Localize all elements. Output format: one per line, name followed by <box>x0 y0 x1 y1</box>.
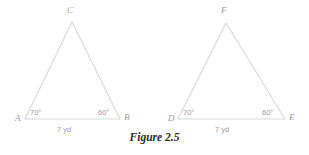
angle-label-d: 70° <box>183 109 194 117</box>
vertex-label-e: E <box>289 113 295 122</box>
vertex-label-f: F <box>221 6 227 15</box>
triangle-def-outline <box>178 23 285 119</box>
angle-label-e: 60° <box>262 109 273 117</box>
figure-caption: Figure 2.5 <box>0 132 309 144</box>
vertex-label-d: D <box>168 114 175 123</box>
figure-container: A B C 70° 60° 7 yd D E F 70° 60° 7 yd Fi… <box>0 0 309 155</box>
